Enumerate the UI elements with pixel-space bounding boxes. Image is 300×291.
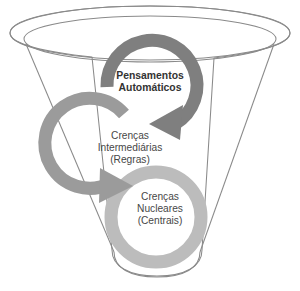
level-label-intermediate-beliefs: Crenças Intermediárias (Regras) [68,130,192,166]
level-label-line: Automáticos [88,82,212,94]
funnel-outer-rim-ellipse [10,6,290,60]
cognitive-funnel-diagram: Pensamentos Automáticos Crenças Intermed… [0,0,300,291]
level-label-line: Crenças [98,191,222,203]
level-label-core-beliefs: Crenças Nucleares (Centrais) [98,191,222,227]
level-label-line: Intermediárias [68,142,192,154]
level-label-line: Nucleares [98,203,222,215]
level-label-line: Crenças [68,130,192,142]
level-label-line: Pensamentos [88,70,212,82]
level-label-line: (Centrais) [98,215,222,227]
level-label-line: (Regras) [68,154,192,166]
level-label-automatic-thoughts: Pensamentos Automáticos [88,70,212,95]
